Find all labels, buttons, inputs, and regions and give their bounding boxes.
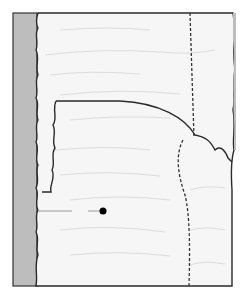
backing-strip [13, 13, 37, 286]
pointer-dot [100, 208, 107, 215]
wood-section-diagram [0, 0, 241, 296]
diagram-canvas [0, 0, 241, 296]
